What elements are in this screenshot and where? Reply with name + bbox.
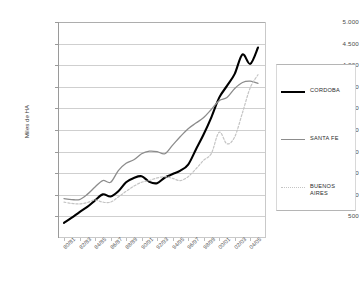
- y-axis-tick-label: 5.000: [313, 18, 359, 25]
- chart-container: Miles de HA 5001.0001.5002.0002.5003.000…: [0, 0, 359, 285]
- plot-area: [58, 22, 266, 238]
- x-axis-tick-mark: [250, 238, 251, 241]
- x-axis-tick-mark: [126, 238, 127, 241]
- series-line-cordoba: [64, 47, 258, 222]
- series-line-buenos-aires: [64, 75, 258, 204]
- legend-label: CORDOBA: [310, 87, 340, 94]
- legend-swatch-buenos-aires-icon: [281, 184, 305, 192]
- y-axis-tick-label: 500: [313, 212, 359, 219]
- chart-legend: CORDOBASANTA FEBUENOS AIRES: [276, 64, 356, 211]
- x-axis-tick-mark: [157, 238, 158, 241]
- legend-line-sample: [281, 187, 305, 188]
- legend-item-buenos-aires[interactable]: BUENOS AIRES: [281, 183, 335, 197]
- y-axis-tick-label: 4.500: [313, 40, 359, 47]
- x-axis-tick-mark: [64, 238, 65, 241]
- series-line-santa-fe: [64, 81, 258, 200]
- x-axis-tick-mark: [142, 238, 143, 241]
- series-lines: [58, 22, 266, 238]
- legend-line-sample: [281, 91, 305, 93]
- legend-item-cordoba[interactable]: CORDOBA: [281, 87, 340, 96]
- legend-swatch-cordoba-icon: [281, 88, 305, 96]
- legend-swatch-santa-fe-icon: [281, 136, 305, 144]
- x-axis-tick-mark: [111, 238, 112, 241]
- x-axis-tick-mark: [173, 238, 174, 241]
- x-axis-tick-mark: [188, 238, 189, 241]
- legend-label: SANTA FE: [310, 135, 339, 142]
- y-axis-title: Miles de HA: [23, 82, 30, 162]
- x-axis-tick-mark: [204, 238, 205, 241]
- x-axis-tick-mark: [80, 238, 81, 241]
- legend-label: BUENOS AIRES: [310, 183, 335, 197]
- legend-item-santa-fe[interactable]: SANTA FE: [281, 135, 339, 144]
- x-axis-tick-mark: [95, 238, 96, 241]
- x-axis-tick-mark: [235, 238, 236, 241]
- legend-line-sample: [281, 139, 305, 140]
- x-axis-tick-mark: [219, 238, 220, 241]
